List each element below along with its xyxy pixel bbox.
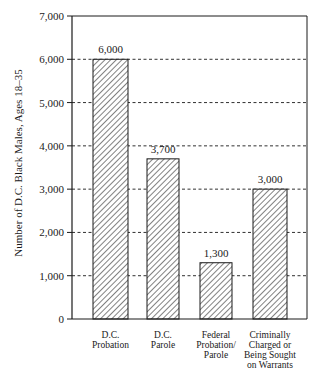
x-category-label: Federal: [202, 330, 231, 340]
y-tick-label: 3,000: [39, 183, 64, 195]
bars: 6,0003,7001,3003,000: [93, 43, 287, 319]
bar-value-label: 1,300: [204, 247, 229, 259]
y-tick-label: 7,000: [39, 10, 64, 22]
x-category-label: D.C.: [102, 330, 120, 340]
x-category-label: D.C.: [154, 330, 172, 340]
x-axis-labels: D.C.ProbationD.C.ParoleFederalProbation/…: [92, 330, 296, 370]
y-tick-label: 4,000: [39, 140, 64, 152]
x-category-label: Parole: [151, 340, 175, 350]
y-tick-label: 0: [59, 313, 65, 325]
y-tick-label: 2,000: [39, 226, 64, 238]
y-tick-label: 5,000: [39, 97, 64, 109]
x-category-label: on Warrants: [247, 360, 293, 370]
y-axis-ticks: 01,0002,0003,0004,0005,0006,0007,000: [39, 10, 72, 325]
y-tick-label: 6,000: [39, 53, 64, 65]
x-category-label: Criminally: [249, 330, 290, 340]
bar-value-label: 3,000: [258, 173, 283, 185]
bar: [147, 159, 179, 319]
bar-value-label: 6,000: [98, 43, 123, 55]
x-category-label: Parole: [204, 350, 228, 360]
x-category-label: Probation/: [196, 340, 236, 350]
x-category-label: Being Sought: [244, 350, 296, 360]
bar: [200, 263, 232, 319]
y-tick-label: 1,000: [39, 270, 64, 282]
bar: [93, 59, 128, 319]
x-category-label: Charged or: [249, 340, 292, 350]
bar: [253, 189, 287, 319]
x-category-label: Probation: [92, 340, 129, 350]
bar-value-label: 3,700: [151, 143, 176, 155]
bar-chart: 6,0003,7001,3003,000 01,0002,0003,0004,0…: [0, 0, 319, 375]
